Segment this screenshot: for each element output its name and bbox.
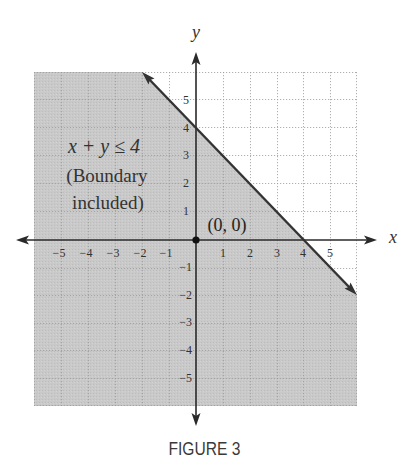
boundary-note-line2: included) bbox=[72, 192, 144, 214]
y-tick-label: −2 bbox=[179, 288, 192, 302]
y-tick-label: −5 bbox=[179, 371, 192, 385]
inequality-graph: y x −5 −4 −3 −2 −1 1 2 3 4 5 5 4 3 2 1 −… bbox=[0, 0, 409, 465]
origin-label: (0, 0) bbox=[208, 215, 247, 236]
figure-caption: FIGURE 3 bbox=[37, 438, 372, 460]
y-tick-label: −1 bbox=[179, 260, 192, 274]
x-tick-label: 4 bbox=[300, 246, 306, 260]
x-tick-label: 1 bbox=[220, 246, 226, 260]
y-tick-label: 5 bbox=[183, 93, 189, 107]
x-axis-label: x bbox=[388, 227, 397, 247]
y-tick-label: 1 bbox=[183, 204, 189, 218]
x-tick-label: −2 bbox=[134, 246, 147, 260]
x-tick-label: −1 bbox=[160, 246, 173, 260]
x-tick-label: 3 bbox=[274, 246, 280, 260]
inequality-label: x + y ≤ 4 bbox=[67, 135, 140, 158]
y-tick-label: −3 bbox=[179, 315, 192, 329]
y-tick-label: 2 bbox=[183, 176, 189, 190]
x-tick-label: 2 bbox=[247, 246, 253, 260]
y-axis-label: y bbox=[190, 22, 200, 42]
boundary-note-line1: (Boundary bbox=[66, 165, 148, 187]
y-tick-label: 3 bbox=[183, 148, 189, 162]
x-tick-label: 5 bbox=[327, 246, 333, 260]
x-tick-label: −4 bbox=[80, 246, 93, 260]
origin-point bbox=[192, 236, 199, 243]
y-tick-label: 4 bbox=[183, 121, 189, 135]
x-tick-label: −5 bbox=[53, 246, 66, 260]
x-tick-label: −3 bbox=[107, 246, 120, 260]
y-tick-label: −4 bbox=[179, 343, 192, 357]
